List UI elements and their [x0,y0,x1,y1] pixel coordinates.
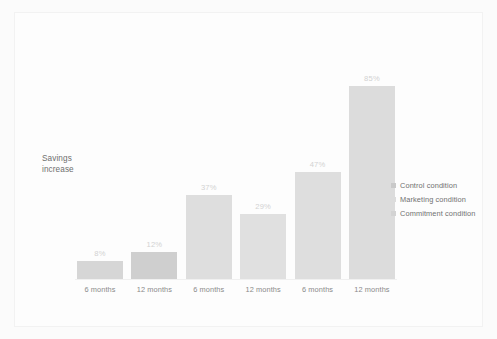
plot-area: 8% 12% 37% 29% 47% [77,53,395,279]
x-axis-tick-label: 6 months [77,285,123,294]
x-axis-tick-label: 6 months [186,285,232,294]
bar-group-control-12: 12% [131,53,177,279]
bar-group-marketing-6: 37% [186,53,232,279]
bar-value-label: 47% [310,160,326,169]
bar-value-label: 85% [364,74,380,83]
x-axis-categories: 6 months 12 months 6 months 12 months 6 … [77,285,395,294]
bar-group-commitment-12: 85% [349,53,395,279]
legend-swatch-icon [391,183,396,188]
bar-group-control-6: 8% [77,53,123,279]
legend-swatch-icon [391,197,396,202]
bar-value-label: 8% [94,249,105,258]
legend-item-commitment: Commitment condition [391,209,476,218]
x-axis-tick-label: 12 months [131,285,177,294]
legend-item-marketing: Marketing condition [391,195,476,204]
chart-page: Savings increase 8% 12% 37% 29% [0,0,497,339]
legend-swatch-icon [391,211,396,216]
bar-value-label: 29% [255,202,271,211]
bar [77,261,123,279]
x-axis-tick-label: 12 months [349,285,395,294]
bar [349,86,395,279]
x-axis-tick-label: 12 months [240,285,286,294]
bar [131,252,177,279]
bar-group-commitment-6: 47% [295,53,341,279]
legend-label: Commitment condition [400,209,476,218]
legend-label: Marketing condition [400,195,466,204]
chart-legend: Control condition Marketing condition Co… [391,181,476,223]
legend-item-control: Control condition [391,181,476,190]
x-axis-line [75,279,397,280]
x-axis-tick-label: 6 months [295,285,341,294]
bar-value-label: 12% [146,240,162,249]
bar [295,172,341,279]
bar [240,214,286,279]
bar-series: 8% 12% 37% 29% 47% [77,53,395,279]
legend-label: Control condition [400,181,457,190]
chart-panel: Savings increase 8% 12% 37% 29% [14,12,483,327]
bar-value-label: 37% [201,183,217,192]
bar-group-marketing-12: 29% [240,53,286,279]
bar [186,195,232,279]
